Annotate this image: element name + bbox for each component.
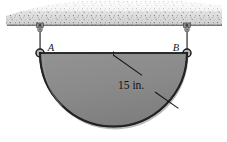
support-b-group: B xyxy=(173,23,191,57)
support-a-label: A xyxy=(47,42,55,53)
support-a-bracket-bolt xyxy=(39,24,42,26)
statics-figure: A B xyxy=(0,0,227,142)
plate-body xyxy=(40,53,187,126)
radius-dimension-label: 15 in. xyxy=(118,79,144,91)
ceiling-support-group xyxy=(4,0,224,26)
semicircular-plate-group xyxy=(40,53,188,129)
figure-canvas: A B xyxy=(0,0,227,142)
support-b-clevis-hole xyxy=(186,28,188,30)
support-a-clevis-hole xyxy=(39,28,41,30)
support-b-label: B xyxy=(173,42,180,53)
support-a-group: A xyxy=(36,23,55,57)
ceiling-stipple xyxy=(4,0,224,26)
support-b-bracket-bolt xyxy=(186,24,189,26)
